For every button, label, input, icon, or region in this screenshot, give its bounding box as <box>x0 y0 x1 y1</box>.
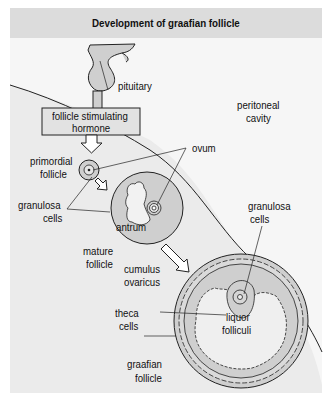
label-liquor: liquor <box>226 311 250 324</box>
label-antrum: antrum <box>116 221 146 234</box>
label-folliculi: folliculi <box>222 324 251 337</box>
label-pituitary: pituitary <box>118 80 152 93</box>
label-granulosa-left-cells: cells <box>43 212 62 225</box>
primordial-follicle <box>79 160 99 180</box>
label-graafian: graafian <box>127 358 162 371</box>
label-ovum: ovum <box>192 142 216 155</box>
pituitary-gland <box>88 44 135 109</box>
label-graafian-follicle: follicle <box>135 372 162 385</box>
label-theca-cells: cells <box>119 320 138 333</box>
label-primordial-follicle: follicle <box>40 168 67 181</box>
label-mature-follicle: follicle <box>86 258 113 271</box>
label-cumulus: cumulus <box>124 263 160 276</box>
label-granulosa-right: granulosa <box>248 200 291 213</box>
label-mature: mature <box>83 245 113 258</box>
label-granulosa-left: granulosa <box>18 199 61 212</box>
label-primordial: primordial <box>30 155 73 168</box>
label-ovaricus: ovaricus <box>124 276 160 289</box>
label-granulosa-right-cells: cells <box>250 213 269 226</box>
label-cavity: cavity <box>246 112 271 125</box>
label-theca: theca <box>115 307 139 320</box>
label-peritoneal: peritoneal <box>237 99 280 112</box>
label-fsh-line2: hormone <box>72 122 110 135</box>
